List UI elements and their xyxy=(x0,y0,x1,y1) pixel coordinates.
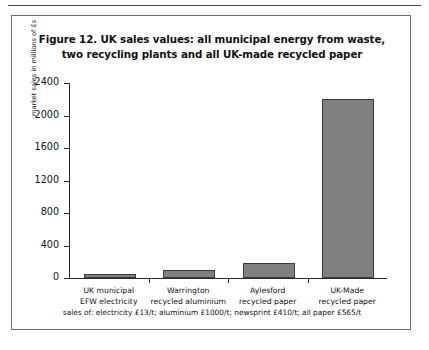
chart-title-line-1: Figure 12. UK sales values: all municipa… xyxy=(32,32,392,47)
y-axis-tick-mark xyxy=(64,213,69,214)
chart-title: Figure 12. UK sales values: all municipa… xyxy=(32,32,392,61)
x-axis-category-label-line: recycled paper xyxy=(228,297,308,308)
y-axis-tick-label: 2400 xyxy=(35,76,59,87)
x-axis-category-label-line: UK municipal xyxy=(69,286,149,297)
y-axis-tick-mark xyxy=(64,83,69,84)
y-axis-tick-label: 800 xyxy=(41,206,59,217)
chart-footnote: sales of: electricity £13/t; aluminium £… xyxy=(32,308,392,317)
y-axis-tick-label: 0 xyxy=(53,271,59,282)
y-axis-tick-label: 2000 xyxy=(35,109,59,120)
y-axis-tick-label: 1600 xyxy=(35,141,59,152)
bar xyxy=(163,270,215,278)
y-axis-tick-label: 400 xyxy=(41,239,59,250)
bar-series xyxy=(70,83,387,278)
x-axis-tick-mark xyxy=(228,278,229,283)
x-axis-category-label-line: recycled paper xyxy=(308,297,388,308)
chart-title-line-2: two recycling plants and all UK-made rec… xyxy=(32,47,392,62)
y-axis-tick-mark xyxy=(64,246,69,247)
y-axis-tick-mark xyxy=(64,181,69,182)
x-axis-tick-mark xyxy=(308,278,309,283)
x-axis-category-label: Aylesfordrecycled paper xyxy=(228,286,308,307)
plot-area: 04008001200160020002400 UK municipalEFW … xyxy=(69,68,399,293)
x-axis-category-label-line: Aylesford xyxy=(228,286,308,297)
x-axis-category-label-line: recycled aluminium xyxy=(149,297,229,308)
top-divider-rule xyxy=(8,5,421,6)
y-axis-tick-mark xyxy=(64,278,69,279)
x-axis-tick-mark xyxy=(149,278,150,283)
x-axis-category-label: UK-Maderecycled paper xyxy=(308,286,388,307)
bar xyxy=(322,99,374,278)
x-axis-category-label: Warringtonrecycled aluminium xyxy=(149,286,229,307)
x-axis-category-label: UK municipalEFW electricity xyxy=(69,286,149,307)
y-axis-tick-mark xyxy=(64,116,69,117)
x-axis-category-label-line: EFW electricity xyxy=(69,297,149,308)
y-axis-tick-mark xyxy=(64,148,69,149)
figure-panel: Figure 12. UK sales values: all municipa… xyxy=(11,15,411,330)
y-axis-tick-label: 1200 xyxy=(35,174,59,185)
x-axis-category-label-line: Warrington xyxy=(149,286,229,297)
x-axis-category-label-line: UK-Made xyxy=(308,286,388,297)
bar xyxy=(243,263,295,278)
bar xyxy=(84,274,136,278)
y-axis-title: market sales in millions of £s xyxy=(30,20,38,116)
